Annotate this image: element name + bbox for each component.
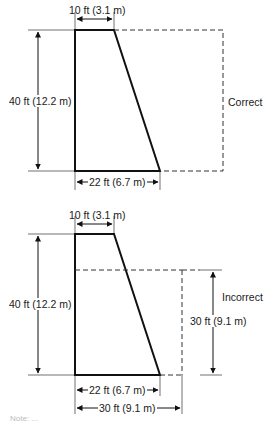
dashed-envelope bbox=[114, 30, 223, 171]
dashed-height-label: 30 ft (9.1 m) bbox=[189, 315, 248, 327]
top-width-label-correct: 10 ft (3.1 m) bbox=[69, 4, 126, 16]
dam-section-shape bbox=[75, 30, 160, 171]
height-label-incorrect: 40 ft (12.2 m) bbox=[8, 298, 72, 310]
diagram-canvas bbox=[0, 0, 276, 422]
verdict-label-incorrect: Incorrect bbox=[222, 291, 263, 303]
height-label-correct: 40 ft (12.2 m) bbox=[8, 95, 72, 107]
verdict-label-correct: Correct bbox=[228, 96, 262, 108]
top-width-label-incorrect: 10 ft (3.1 m) bbox=[69, 209, 126, 221]
base-width-label-incorrect: 22 ft (6.7 m) bbox=[88, 384, 147, 396]
figure-note-partial: Note: ... bbox=[10, 414, 38, 422]
dashed-width-label: 30 ft (9.1 m) bbox=[98, 402, 157, 414]
dam-section-shape bbox=[75, 234, 160, 375]
base-width-label-correct: 22 ft (6.7 m) bbox=[88, 176, 147, 188]
